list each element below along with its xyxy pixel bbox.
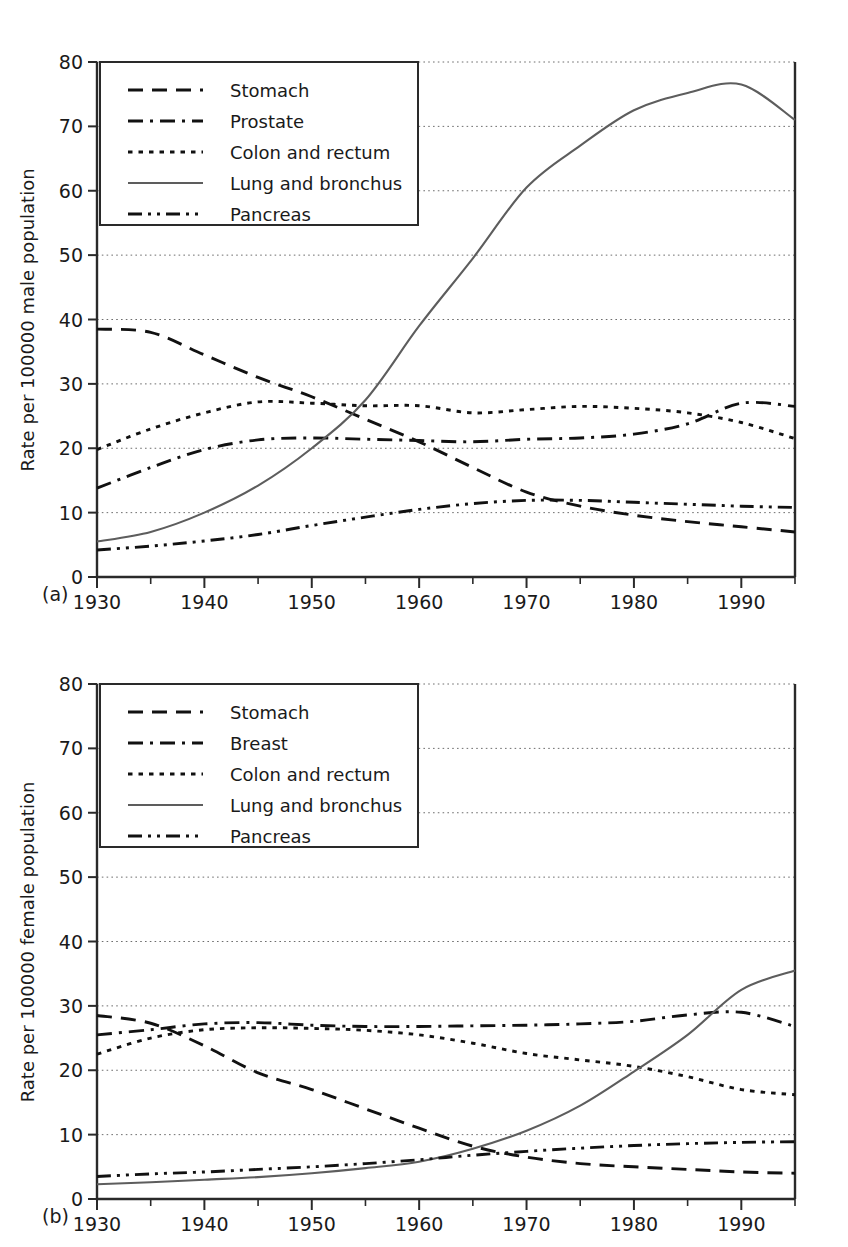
series-line-colon-and-rectum	[97, 1028, 795, 1095]
legend-label-colon-and-rectum: Colon and rectum	[230, 142, 390, 163]
chart-panel-b: 01020304050607080 1930194019501960197019…	[0, 622, 848, 1247]
series-line-prostate	[97, 402, 795, 488]
y-tick-label: 60	[59, 802, 83, 824]
legend-label-prostate: Prostate	[230, 111, 304, 132]
legend-label-lung-and-bronchus: Lung and bronchus	[230, 173, 402, 194]
x-tick-label: 1990	[717, 591, 765, 613]
x-tick-label: 1950	[288, 591, 336, 613]
x-tick-label: 1960	[395, 591, 443, 613]
cancer-mortality-figure: 01020304050607080 1930194019501960197019…	[0, 0, 848, 1247]
y-tick-label: 70	[59, 737, 83, 759]
y-tick-label: 60	[59, 180, 83, 202]
y-tick-labels-a: 01020304050607080	[59, 51, 83, 588]
chart-panel-a: 01020304050607080 1930194019501960197019…	[0, 0, 848, 625]
y-tick-label: 50	[59, 244, 83, 266]
panel-letter-a: (a)	[42, 583, 68, 605]
x-tick-label: 1940	[180, 591, 228, 613]
y-tick-label: 50	[59, 866, 83, 888]
legend-label-colon-and-rectum: Colon and rectum	[230, 764, 390, 785]
y-tick-labels-b: 01020304050607080	[59, 673, 83, 1210]
y-tick-label: 80	[59, 673, 83, 695]
page-caption-fragment	[0, 1222, 848, 1247]
y-tick-label: 30	[59, 995, 83, 1017]
y-tick-label: 0	[71, 566, 83, 588]
y-tick-label: 10	[59, 502, 83, 524]
y-tick-label: 10	[59, 1124, 83, 1146]
chart-b-svg: 01020304050607080 1930194019501960197019…	[0, 622, 848, 1247]
series-line-pancreas	[97, 500, 795, 550]
legend-b: StomachBreastColon and rectumLung and br…	[100, 684, 418, 847]
legend-label-stomach: Stomach	[230, 702, 309, 723]
legend-label-pancreas: Pancreas	[230, 204, 311, 225]
series-lines-b	[97, 970, 795, 1184]
x-tick-label: 1980	[610, 591, 658, 613]
x-tick-labels-a: 1930194019501960197019801990	[73, 591, 766, 613]
y-tick-label: 0	[71, 1188, 83, 1210]
y-tick-label: 70	[59, 115, 83, 137]
series-line-pancreas	[97, 1142, 795, 1177]
y-axis-title-b: Rate per 100000 female population	[17, 782, 38, 1103]
x-tick-label: 1930	[73, 591, 121, 613]
y-tick-label: 40	[59, 931, 83, 953]
y-tick-label: 80	[59, 51, 83, 73]
legend-label-stomach: Stomach	[230, 80, 309, 101]
y-tick-label: 20	[59, 437, 83, 459]
chart-a-svg: 01020304050607080 1930194019501960197019…	[0, 0, 848, 625]
legend-label-lung-and-bronchus: Lung and bronchus	[230, 795, 402, 816]
y-tick-label: 20	[59, 1059, 83, 1081]
legend-label-pancreas: Pancreas	[230, 826, 311, 847]
x-tick-label: 1970	[502, 591, 550, 613]
y-tick-label: 30	[59, 373, 83, 395]
series-line-stomach	[97, 329, 795, 532]
legend-a: StomachProstateColon and rectumLung and …	[100, 62, 418, 225]
legend-label-breast: Breast	[230, 733, 288, 754]
y-axis-title-a: Rate per 100000 male population	[17, 168, 38, 471]
y-tick-label: 40	[59, 309, 83, 331]
series-line-stomach	[97, 1016, 795, 1174]
